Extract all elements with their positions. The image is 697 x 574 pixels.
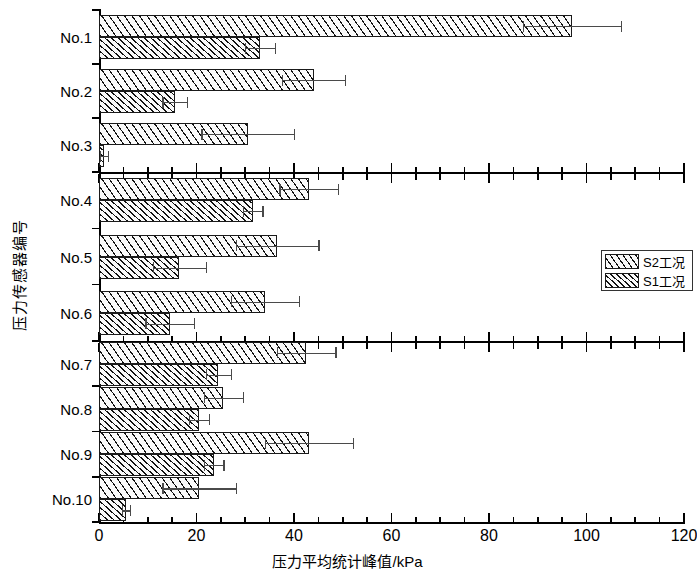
error-bar-cap <box>209 414 210 425</box>
error-bar-cap <box>335 347 336 358</box>
x-tick <box>439 343 441 349</box>
error-bar-cap <box>231 296 232 307</box>
x-tick <box>366 174 368 180</box>
y-tick <box>92 117 101 119</box>
bar-S1工况-No.8 <box>99 409 199 431</box>
x-tick <box>464 343 466 349</box>
x-tick <box>439 167 441 173</box>
error-bar-cap <box>523 21 524 32</box>
error-bar-cap <box>206 262 207 273</box>
x-tick <box>537 167 539 173</box>
x-tick <box>342 174 344 180</box>
x-tick <box>318 174 320 180</box>
legend-swatch-s1 <box>605 273 639 288</box>
x-tick <box>464 517 466 523</box>
error-bar-line <box>282 80 345 81</box>
x-tick <box>610 517 612 523</box>
x-tick <box>488 343 490 352</box>
x-tick <box>171 517 173 523</box>
x-tick <box>269 517 271 523</box>
error-bar-cap <box>130 505 131 516</box>
y-tick-label: No.5 <box>20 248 92 265</box>
x-tick <box>318 167 320 173</box>
x-tick <box>147 336 149 342</box>
x-tick <box>171 336 173 342</box>
x-tick <box>488 163 490 172</box>
y-tick <box>92 521 101 523</box>
error-bar-cap <box>100 151 101 162</box>
error-bar-cap <box>338 184 339 195</box>
x-tick <box>513 343 515 349</box>
x-tick <box>391 343 393 352</box>
x-tick <box>366 343 368 349</box>
error-bar-cap <box>318 240 319 251</box>
x-tick <box>634 517 636 523</box>
x-axis-title: 压力平均统计峰值/kPa <box>0 550 695 571</box>
x-tick <box>415 174 417 180</box>
x-tick <box>196 513 198 522</box>
y-tick <box>92 63 101 65</box>
y-tick-label: No.1 <box>20 29 92 46</box>
x-tick <box>342 167 344 173</box>
bar-S2工况-No.1 <box>99 15 572 37</box>
error-bar-cap <box>201 129 202 140</box>
x-tick <box>366 336 368 342</box>
bar-S1工况-No.4 <box>99 200 253 222</box>
y-axis-title: 压力传感器编号 <box>8 195 29 355</box>
error-bar-cap <box>236 483 237 494</box>
x-tick <box>683 513 685 522</box>
error-bar-cap <box>204 460 205 471</box>
error-bar-cap <box>187 97 188 108</box>
error-bar-cap <box>145 318 146 329</box>
error-bar-cap <box>282 75 283 86</box>
x-tick <box>561 167 563 173</box>
x-tick <box>415 167 417 173</box>
x-tick <box>318 517 320 523</box>
x-tick <box>586 332 588 341</box>
x-tick <box>683 174 685 183</box>
x-tick <box>318 343 320 349</box>
error-bar-line <box>162 102 186 103</box>
error-bar-cap <box>345 75 346 86</box>
x-tick <box>464 174 466 180</box>
x-tick <box>488 332 490 341</box>
x-tick <box>488 174 490 183</box>
x-tick <box>634 167 636 173</box>
x-tick <box>220 336 222 342</box>
x-tick <box>269 167 271 173</box>
x-tick <box>366 167 368 173</box>
x-tick <box>415 517 417 523</box>
x-tick <box>513 517 515 523</box>
error-bar-line <box>153 268 207 269</box>
x-tick <box>147 167 149 173</box>
error-bar-cap <box>162 97 163 108</box>
legend-label-s1: S1工况 <box>643 271 685 290</box>
error-bar-line <box>145 324 194 325</box>
x-tick <box>293 332 295 341</box>
x-axis-bottom <box>99 522 685 524</box>
error-bar-cap <box>277 347 278 358</box>
x-tick <box>513 174 515 180</box>
x-tick <box>439 174 441 180</box>
y-tick-label: No.10 <box>20 491 92 508</box>
x-tick <box>610 174 612 180</box>
x-tick <box>269 336 271 342</box>
x-tick <box>561 174 563 180</box>
x-tick <box>293 163 295 172</box>
error-bar-cap <box>206 369 207 380</box>
x-tick-label: 20 <box>188 527 206 545</box>
y-tick-label: No.4 <box>20 192 92 209</box>
error-bar-line <box>204 398 243 399</box>
error-bar-cap <box>265 438 266 449</box>
x-tick <box>537 517 539 523</box>
error-bar-line <box>162 488 235 489</box>
x-tick <box>659 174 661 180</box>
error-bar-cap <box>243 392 244 403</box>
y-tick-label: No.6 <box>20 304 92 321</box>
x-tick-label: 120 <box>671 527 697 545</box>
x-tick <box>439 517 441 523</box>
y-tick <box>92 284 101 286</box>
bar-S1工况-No.9 <box>99 454 214 476</box>
error-bar-line <box>231 302 299 303</box>
